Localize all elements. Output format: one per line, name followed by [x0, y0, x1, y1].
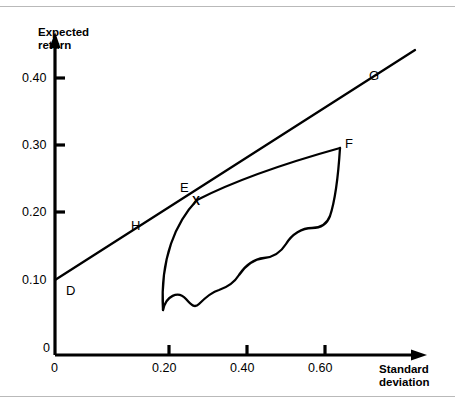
y-axis-title-line2: return: [38, 39, 71, 51]
feasible-region-left-boundary: [163, 200, 197, 310]
x-tick-label-060: 0.60: [308, 361, 332, 375]
x-tick-label-000: 0: [51, 361, 58, 375]
tangency-point-marker-X: X: [192, 194, 200, 208]
point-label-F: F: [345, 136, 353, 151]
x-tick-label-040: 0.40: [230, 361, 254, 375]
x-axis-title-line1: Standard: [379, 363, 429, 375]
x-axis-title: Standard deviation: [379, 363, 429, 389]
point-label-H: H: [131, 218, 140, 233]
x-axis-arrowhead: [411, 350, 427, 361]
portfolio-frontier-figure: Expected return Standard deviation 0.40 …: [0, 0, 455, 407]
y-axis-title: Expected return: [38, 26, 89, 52]
point-label-D: D: [66, 283, 75, 298]
chart-canvas: [0, 0, 455, 407]
point-label-G: G: [369, 68, 379, 83]
y-axis-title-line1: Expected: [38, 26, 89, 38]
point-label-E: E: [180, 180, 189, 195]
y-tick-label-040: 0.40: [22, 71, 46, 85]
x-tick-label-020: 0.20: [152, 361, 176, 375]
capital-market-line: [55, 50, 415, 280]
y-tick-label-020: 0.20: [22, 205, 46, 219]
y-tick-label-000: 0: [43, 341, 50, 355]
y-tick-label-030: 0.30: [22, 138, 46, 152]
y-tick-label-010: 0.10: [22, 273, 46, 287]
efficient-frontier-curve: [197, 148, 340, 200]
feasible-region-lower-boundary: [163, 148, 340, 310]
x-axis-title-line2: deviation: [379, 376, 429, 388]
